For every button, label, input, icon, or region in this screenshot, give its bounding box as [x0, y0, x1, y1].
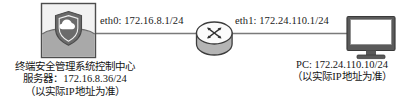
pc-caption-line-2: （以实际IP地址为准） [271, 71, 413, 83]
pc-node[interactable] [347, 17, 395, 59]
monitor-screen [351, 20, 392, 45]
server-caption-line-3: （以实际IP地址为准） [2, 86, 148, 98]
router-node[interactable] [197, 22, 233, 55]
pc-caption-line-1: PC: 172.24.110.10/24 [271, 59, 413, 71]
server-caption-line-1: 终端安全管理系统控制中心 [2, 61, 148, 73]
network-topology-diagram: eth0: 172.16.8.1/24 eth1: 172.24.110.1/2… [0, 0, 415, 109]
server-caption: 终端安全管理系统控制中心 服务器：172.16.8.36/24 （以实际IP地址… [2, 61, 148, 98]
server-caption-line-2: 服务器：172.16.8.36/24 [2, 73, 148, 85]
link-label-eth0: eth0: 172.16.8.1/24 [100, 15, 184, 26]
server-node[interactable] [42, 4, 96, 58]
pc-caption: PC: 172.24.110.10/24 （以实际IP地址为准） [271, 59, 413, 84]
link-label-eth1: eth1: 172.24.110.1/24 [235, 15, 329, 26]
